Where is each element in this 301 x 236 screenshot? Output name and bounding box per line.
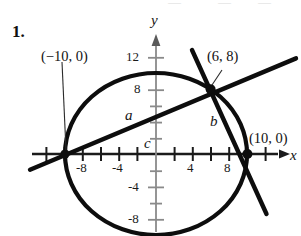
y-tick-neg8: -8: [128, 211, 139, 227]
x-tick-8: 8: [224, 160, 231, 176]
x-axis-arrow: [279, 150, 290, 159]
y-tick-neg4: -4: [128, 179, 139, 195]
point-left: [60, 149, 69, 158]
label-line-a: a: [125, 107, 133, 124]
leader-left-point: [62, 62, 66, 150]
y-tick-12: 12: [126, 49, 139, 65]
label-left-point: (−10, 0): [41, 48, 88, 65]
label-line-c: c: [144, 135, 151, 152]
label-right-point: (10, 0): [249, 130, 288, 147]
label-top-point: (6, 8): [207, 48, 238, 65]
x-tick-neg4: -4: [112, 160, 123, 176]
y-axis-label: y: [151, 12, 158, 29]
y-tick-8: 8: [134, 81, 141, 97]
coordinate-figure: [0, 0, 301, 236]
x-tick-neg8: -8: [76, 160, 87, 176]
label-line-b: b: [210, 113, 218, 130]
x-axis-label: x: [290, 147, 297, 164]
leader-top-point: [212, 70, 222, 85]
y-axis-arrow: [152, 34, 161, 46]
point-right: [242, 149, 252, 159]
x-tick-4: 4: [187, 160, 194, 176]
point-top: [206, 84, 216, 94]
